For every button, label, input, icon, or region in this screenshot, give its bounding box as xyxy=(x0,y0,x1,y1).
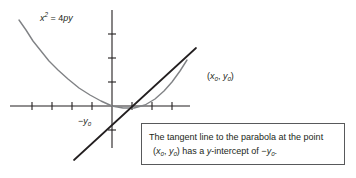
caption-line-2: (x0, y0) has a y-intercept of −y0. xyxy=(149,144,337,161)
y-intercept-label: −y0 xyxy=(78,117,91,127)
caption-middle-text: ) has a xyxy=(177,146,207,156)
caption-period: . xyxy=(275,146,278,156)
point-close-paren: ) xyxy=(231,71,234,81)
parabola-equation-label: x2 = 4py xyxy=(40,12,73,23)
caption-suffix-text: -intercept of − xyxy=(211,146,266,156)
parabola-curve xyxy=(19,20,187,108)
tangent-point-label: (x0, y0) xyxy=(207,72,234,82)
parabola-tangent-figure: x2 = 4py (x0, y0) −y0 The tangent line t… xyxy=(0,0,356,178)
equation-equals: = 4 xyxy=(48,13,63,23)
caption-line-1: The tangent line to the parabola at the … xyxy=(149,130,337,144)
caption-box: The tangent line to the parabola at the … xyxy=(141,123,345,165)
equation-y-var: y xyxy=(68,13,73,23)
yintercept-subscript: 0 xyxy=(88,120,91,127)
